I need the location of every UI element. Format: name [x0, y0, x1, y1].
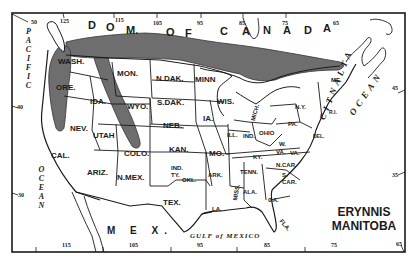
label-state-ky: KY.	[253, 154, 262, 160]
label-state-ia: IA.	[203, 115, 213, 123]
label-state-cal: CAL.	[51, 152, 70, 160]
label-state-del: DEL.	[313, 134, 324, 139]
label-canada-a3: A	[323, 23, 331, 34]
tick-lon-95: 95	[197, 20, 203, 26]
label-state-wva-1: W.	[279, 141, 286, 147]
tick-bottom-75: 75	[331, 242, 337, 248]
tick-bottom-95: 95	[197, 242, 203, 248]
label-state-ohio: OHIO	[259, 130, 274, 136]
tick-bottom-85: 85	[264, 242, 270, 248]
label-state-mon: MON.	[117, 70, 138, 78]
label-state-kan: KAN.	[169, 146, 189, 154]
range-map: 50 40 30 125 115 105 95 85 75 65 45 35 1…	[0, 0, 416, 265]
label-state-minn: MINN	[195, 76, 215, 84]
tick-lon-115: 115	[115, 17, 124, 23]
label-state-wva-2: VA.	[276, 149, 286, 155]
label-pacific-ocean: OCEAN	[35, 165, 47, 210]
label-state-wis: WIS.	[217, 98, 234, 106]
label-canada-o: O	[106, 22, 115, 33]
label-state-va: VA.	[290, 150, 300, 156]
tick-lat-40: 40	[17, 104, 23, 110]
label-mexico: M E X.	[107, 226, 173, 236]
label-state-wyo: WYO.	[127, 103, 148, 111]
tick-bottom-65: 65	[396, 241, 402, 247]
map-title-species: MANITOBA	[328, 219, 400, 233]
label-canada-c: C	[220, 26, 228, 37]
label-state-wash: WASH.	[58, 58, 84, 66]
label-state-utah: UTAH	[93, 132, 115, 140]
tick-bottom-115: 115	[62, 242, 71, 248]
label-state-ind: IND.	[243, 133, 255, 139]
label-state-la: LA.	[212, 206, 222, 212]
label-state-ny: N.Y.	[295, 104, 306, 110]
label-state-mo: MO.	[209, 150, 224, 158]
label-state-pa: PA.	[288, 121, 298, 127]
label-state-ri: R.I.	[329, 110, 337, 115]
label-indian-territory-2: TY.	[171, 172, 180, 178]
label-indian-territory-1: IND.	[171, 165, 183, 171]
map-title: ERYNNIS MANITOBA	[328, 205, 400, 233]
tick-lon-105: 105	[153, 20, 162, 26]
label-state-me: ME.	[331, 77, 342, 83]
label-state-idaho: IDA.	[90, 98, 106, 106]
label-state-ill: ILL.	[227, 132, 238, 138]
label-state-okl: OKL.	[182, 177, 196, 183]
label-state-scar-1: S.	[282, 172, 288, 178]
tick-lat-50: 50	[31, 19, 37, 25]
label-gulf-of-mexico: GULF of MEXICO	[190, 233, 260, 240]
label-state-ariz: ARIZ.	[87, 169, 108, 177]
tick-lon-65: 65	[333, 20, 339, 26]
label-canada-o2: O	[166, 27, 175, 38]
label-state-tenn: TENN.	[240, 169, 258, 175]
label-state-tex: TEX.	[163, 199, 181, 207]
tick-lat-30: 30	[18, 192, 24, 198]
tick-lat-45: 45	[392, 85, 398, 91]
label-state-nev: NEV.	[70, 125, 88, 133]
label-canada-m: M.	[126, 25, 138, 36]
baja-lines	[72, 192, 104, 252]
label-canada-d2: D	[304, 25, 312, 36]
label-state-ncar: N.CAR.	[276, 162, 297, 168]
map-title-genus: ERYNNIS	[328, 205, 400, 219]
label-state-scar-2: CAR.	[282, 179, 297, 185]
label-state-ore: ORE.	[56, 84, 76, 92]
tick-lat-35: 35	[392, 172, 398, 178]
label-canada-a: A	[242, 26, 250, 37]
label-state-ala: ALA.	[243, 189, 257, 195]
label-canada-n: N	[263, 25, 271, 36]
tick-bottom-105: 105	[129, 242, 138, 248]
label-state-colo: COLO.	[124, 150, 149, 158]
label-state-neb: NEB.	[163, 122, 182, 130]
label-canada-f: F	[185, 28, 192, 39]
label-state-nmex: N.MEX.	[117, 174, 145, 182]
label-state-ga: GA.	[268, 197, 279, 203]
label-state-ndak: N.DAK.	[156, 75, 184, 83]
label-state-sdak: S.DAK.	[157, 99, 184, 107]
label-state-ark: ARK.	[208, 172, 223, 178]
label-canada-a2: A	[283, 25, 291, 36]
tick-lon-125: 125	[60, 18, 69, 24]
label-canada-d: D	[88, 20, 96, 31]
label-pacific: PACIFIC	[23, 27, 34, 90]
